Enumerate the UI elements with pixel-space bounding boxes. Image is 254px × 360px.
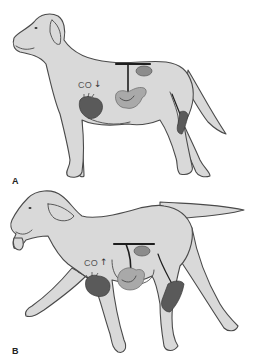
heart-icon — [85, 275, 110, 296]
panel-a-resting-dog: CO ↓ A — [0, 0, 254, 180]
cardiac-output-label-b: CO — [84, 258, 98, 268]
panel-label-b: B — [12, 346, 19, 356]
dog-standing-illustration — [0, 0, 254, 180]
dog-body — [13, 14, 193, 177]
kidney-icon — [136, 66, 152, 76]
eye — [29, 207, 32, 209]
kidney-icon — [134, 246, 150, 256]
arrow-up-icon: ↑ — [100, 258, 108, 267]
arrow-down-icon: ↓ — [94, 80, 102, 89]
panel-b-exercising-dog: CO ↑ B — [0, 180, 254, 360]
eye — [35, 27, 38, 29]
cardiac-output-label-a: CO — [78, 80, 92, 90]
dog-trotting-illustration — [0, 180, 254, 360]
intestine-icon — [118, 268, 145, 290]
tongue — [13, 238, 23, 250]
